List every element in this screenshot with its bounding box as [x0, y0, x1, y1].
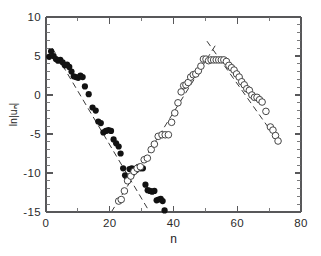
x-tick-label: 20 — [103, 217, 117, 229]
data-point — [120, 165, 126, 171]
y-tick-label: -15 — [23, 206, 41, 218]
data-point — [198, 63, 205, 70]
data-point — [82, 83, 88, 89]
data-point — [151, 141, 158, 148]
y-tick-label: 0 — [34, 89, 41, 101]
axis-labels-group: -15-10-50510020406080nln|uₙ| — [7, 11, 308, 246]
data-point — [168, 119, 175, 126]
data-point — [118, 196, 125, 203]
data-point — [108, 128, 114, 134]
data-point — [121, 188, 128, 195]
data-point — [117, 150, 123, 156]
y-tick-label: -10 — [23, 167, 41, 179]
data-point — [175, 100, 182, 107]
x-axis-title: n — [170, 232, 177, 246]
data-point — [98, 120, 104, 126]
y-tick-label: 5 — [34, 50, 41, 62]
data-series-group — [46, 48, 281, 213]
y-tick-label: -5 — [30, 128, 41, 140]
data-point — [137, 163, 144, 170]
x-tick-label: 80 — [294, 217, 308, 229]
data-point — [263, 108, 270, 115]
data-point — [161, 207, 167, 213]
figure-container: -15-10-50510020406080nln|uₙ| — [0, 0, 321, 256]
x-tick-label: 40 — [167, 217, 181, 229]
data-point — [93, 108, 99, 114]
y-axis-title: ln|uₙ| — [7, 103, 19, 126]
data-point — [160, 198, 166, 204]
series-open-circles — [115, 56, 281, 205]
fit-lines-group — [52, 41, 282, 212]
data-point — [151, 188, 157, 194]
y-tick-label: 10 — [27, 11, 41, 23]
data-point — [259, 99, 266, 106]
left-decay-fit — [52, 48, 149, 212]
data-point — [116, 143, 122, 149]
x-tick-label: 60 — [230, 217, 244, 229]
data-point — [80, 74, 86, 80]
scatter-plot: -15-10-50510020406080nln|uₙ| — [0, 0, 321, 256]
data-point — [171, 110, 178, 117]
x-tick-label: 0 — [43, 217, 50, 229]
data-point — [142, 182, 148, 188]
data-point — [86, 91, 92, 97]
data-point — [165, 131, 172, 138]
data-point — [275, 138, 282, 145]
data-point — [178, 89, 185, 96]
series-filled-circles — [46, 48, 168, 213]
data-point — [144, 155, 151, 162]
